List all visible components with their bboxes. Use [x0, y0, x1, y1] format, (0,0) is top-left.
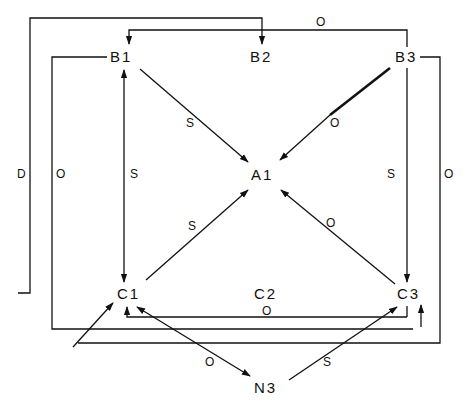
edge-top-o	[129, 30, 407, 47]
node-c3: C3	[397, 285, 420, 302]
edge-label-n3-c3-s: S	[323, 355, 331, 369]
edge-right-o	[73, 57, 440, 347]
edge-label-b1-a1-s: S	[186, 116, 194, 130]
edge-label-b3-a1-o: O	[330, 116, 339, 130]
edge-label-top-o: O	[316, 15, 325, 29]
relationship-diagram: D O O O O S S S O S	[0, 0, 468, 413]
edge-label-right-o: O	[444, 167, 453, 181]
node-c1: C1	[117, 285, 140, 302]
edge-label-b3-c3-s: S	[387, 167, 395, 181]
edge-label-c1-n3-o: O	[205, 355, 214, 369]
edge-c3-a1-o	[281, 190, 395, 284]
edge-label-c3-c1-o: O	[262, 304, 271, 318]
node-b1: B1	[110, 48, 132, 65]
edge-outer-d	[18, 18, 262, 293]
edge-inner-left-o	[52, 57, 421, 329]
node-b2: B2	[250, 48, 272, 65]
edge-label-c3-a1-o: O	[326, 216, 335, 230]
node-c2: C2	[254, 285, 277, 302]
edge-label-c1-a1-s: S	[188, 219, 196, 233]
node-b3: B3	[395, 48, 417, 65]
edge-label-b1-c1-s: S	[130, 167, 138, 181]
node-a1: A1	[251, 166, 273, 183]
edge-label-d: D	[17, 167, 26, 181]
edge-label-inner-left-o: O	[56, 167, 65, 181]
edge-b3-a1-o	[280, 68, 390, 160]
edge-c1-a1-s	[146, 190, 248, 280]
node-n3: N3	[254, 379, 277, 396]
